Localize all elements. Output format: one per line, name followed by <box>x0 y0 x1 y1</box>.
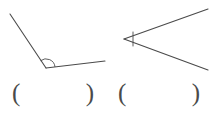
close-paren-icon: ) <box>86 80 94 105</box>
open-paren-icon: ( <box>118 80 126 105</box>
answer-blanks: ( ) ( ) <box>0 0 217 113</box>
answer-input-left[interactable] <box>20 79 85 105</box>
answer-blank-left[interactable]: ( ) <box>12 79 94 105</box>
worksheet-canvas: ( ) ( ) <box>0 0 217 113</box>
answer-blank-right[interactable]: ( ) <box>118 79 200 105</box>
close-paren-icon: ) <box>192 80 200 105</box>
answer-input-right[interactable] <box>126 79 191 105</box>
open-paren-icon: ( <box>12 80 20 105</box>
